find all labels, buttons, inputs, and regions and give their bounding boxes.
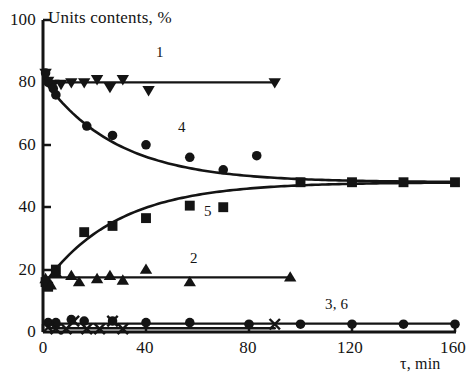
curve-4 bbox=[46, 82, 455, 181]
marker-5 bbox=[399, 177, 409, 187]
marker-5 bbox=[108, 221, 118, 231]
marker-5 bbox=[347, 177, 357, 187]
marker-5 bbox=[450, 177, 460, 187]
chart-figure: 100 80 60 40 20 0 Units contents, % τ, m… bbox=[0, 0, 475, 377]
marker-5 bbox=[141, 213, 151, 223]
fitted-curves bbox=[46, 82, 455, 328]
plot-area bbox=[0, 0, 475, 377]
marker-5 bbox=[185, 201, 195, 211]
marker-3 bbox=[296, 319, 306, 329]
marker-5 bbox=[79, 227, 89, 237]
marker-2 bbox=[140, 263, 152, 273]
marker-4 bbox=[51, 90, 61, 100]
marker-1 bbox=[91, 75, 103, 85]
marker-4 bbox=[141, 140, 151, 150]
marker-2 bbox=[104, 270, 116, 280]
marker-2 bbox=[117, 274, 129, 284]
marker-3 bbox=[141, 318, 151, 328]
marker-3 bbox=[347, 319, 357, 329]
marker-4 bbox=[108, 131, 118, 141]
marker-4 bbox=[252, 151, 262, 161]
marker-2 bbox=[65, 270, 77, 280]
marker-4 bbox=[218, 165, 228, 175]
marker-1 bbox=[142, 86, 154, 96]
marker-4 bbox=[82, 121, 92, 131]
marker-1 bbox=[104, 83, 116, 93]
curve-5 bbox=[46, 183, 455, 282]
marker-4 bbox=[185, 152, 195, 162]
marker-3 bbox=[185, 318, 195, 328]
marker-5 bbox=[296, 177, 306, 187]
marker-3 bbox=[450, 319, 460, 329]
marker-1 bbox=[117, 75, 129, 85]
data-markers bbox=[39, 68, 460, 334]
marker-4 bbox=[41, 68, 51, 78]
marker-3 bbox=[244, 319, 254, 329]
marker-3 bbox=[399, 319, 409, 329]
marker-5 bbox=[218, 202, 228, 212]
